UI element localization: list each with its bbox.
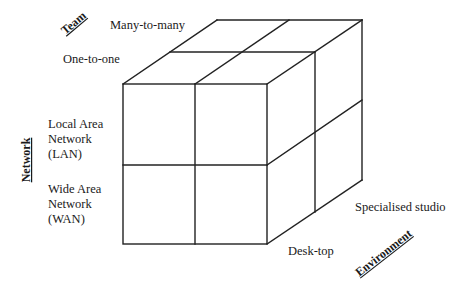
wan-line-1: Wide Area	[48, 182, 102, 196]
cube-right-face	[267, 20, 362, 244]
team-axis-label: Team	[58, 8, 89, 37]
lan-line-2: Network	[48, 132, 92, 146]
team-one-to-one-label: One-to-one	[63, 52, 120, 66]
wan-line-3: (WAN)	[48, 212, 85, 226]
lan-line-3: (LAN)	[48, 147, 82, 161]
cube-front-face	[123, 84, 267, 244]
team-many-to-many-label: Many-to-many	[110, 18, 186, 32]
lan-line-1: Local Area	[48, 117, 104, 131]
environment-specialised-studio-label: Specialised studio	[355, 200, 446, 214]
wan-line-2: Network	[48, 197, 92, 211]
cube-diagram: Team Many-to-many One-to-one Network Loc…	[0, 0, 464, 286]
network-lan-label: Local Area Network (LAN)	[48, 117, 104, 161]
network-axis-label: Network	[19, 137, 33, 182]
network-wan-label: Wide Area Network (WAN)	[48, 182, 102, 226]
environment-desktop-label: Desk-top	[288, 244, 334, 258]
environment-axis-label: Environment	[353, 226, 415, 279]
